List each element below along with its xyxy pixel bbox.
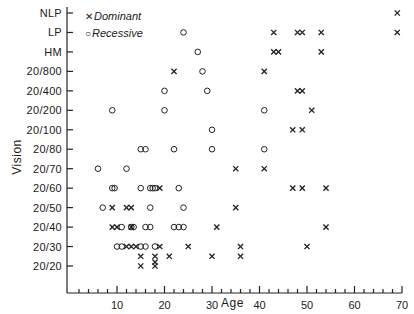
recessive-point (138, 185, 144, 191)
recessive-point (209, 146, 215, 152)
dominant-point (300, 88, 305, 93)
y-tick-label: 20/800 (27, 65, 62, 77)
dominant-point (129, 244, 134, 249)
legend: ✕Dominant ○Recessive (85, 8, 143, 42)
dominant-point (152, 260, 157, 265)
x-tick-label: 20 (158, 299, 170, 311)
recessive-point (124, 166, 130, 172)
y-tick-label: 20/400 (27, 85, 62, 97)
y-tick-label: 20/70 (33, 163, 62, 175)
recessive-point (109, 108, 115, 114)
dominant-point (171, 69, 176, 74)
dominant-point (271, 49, 276, 54)
dominant-point (395, 30, 400, 35)
x-axis-title: Age (221, 296, 244, 310)
dominant-point (152, 254, 157, 259)
dominant-point (300, 186, 305, 191)
recessive-point (209, 127, 215, 133)
dominant-point (110, 224, 115, 229)
recessive-point (181, 30, 187, 36)
dominant-point (295, 30, 300, 35)
y-tick-label: LP (48, 26, 62, 38)
dominant-point (319, 30, 324, 35)
y-tick-label: 20/30 (33, 241, 62, 253)
dominant-point (323, 186, 328, 191)
recessive-point (261, 108, 267, 114)
y-tick-label: 20/200 (27, 104, 62, 116)
x-tick-label: 40 (253, 299, 265, 311)
dominant-point (209, 254, 214, 259)
dominant-point (276, 49, 281, 54)
y-tick-label: NLP (40, 7, 62, 19)
recessive-point (152, 244, 158, 250)
recessive-point (162, 88, 168, 94)
y-tick-label: 20/20 (33, 260, 62, 272)
recessive-point (181, 205, 187, 211)
dominant-point (300, 30, 305, 35)
y-tick-label: 20/40 (33, 221, 62, 233)
recessive-point (200, 69, 206, 75)
legend-item-dominant: ✕Dominant (85, 8, 143, 25)
recessive-point (261, 146, 267, 152)
circle-marker-icon: ○ (85, 28, 91, 39)
x-tick-label: 70 (396, 299, 408, 311)
dominant-point (309, 108, 314, 113)
dominant-point (238, 254, 243, 259)
x-tick-label: 30 (206, 299, 218, 311)
legend-item-recessive: ○Recessive (85, 25, 143, 42)
recessive-point (119, 224, 125, 230)
recessive-point (147, 205, 153, 211)
dominant-point (271, 30, 276, 35)
dominant-point (238, 244, 243, 249)
dominant-point (186, 244, 191, 249)
recessive-point (195, 49, 201, 55)
dominant-point (233, 205, 238, 210)
recessive-point (204, 88, 210, 94)
dominant-point (233, 166, 238, 171)
y-tick-label: 20/80 (33, 143, 62, 155)
dominant-point (138, 254, 143, 259)
recessive-point (162, 108, 168, 114)
dominant-point (304, 244, 309, 249)
y-axis-title: Vision (10, 139, 24, 174)
dominant-point (110, 205, 115, 210)
plot-area (0, 0, 414, 314)
dominant-point (300, 127, 305, 132)
dominant-point (129, 205, 134, 210)
recessive-point (176, 185, 182, 191)
y-tick-label: 20/50 (33, 202, 62, 214)
dominant-point (295, 88, 300, 93)
dominant-point (395, 10, 400, 15)
dominant-point (262, 166, 267, 171)
recessive-point (95, 166, 101, 172)
dominant-point (138, 263, 143, 268)
dominant-point (290, 127, 295, 132)
dominant-point (323, 224, 328, 229)
x-tick-label: 10 (111, 299, 123, 311)
x-marker-icon: ✕ (85, 11, 93, 22)
dominant-point (262, 69, 267, 74)
recessive-point (100, 205, 106, 211)
dominant-point (290, 186, 295, 191)
scatter-chart: 20/2020/3020/4020/5020/6020/7020/8020/10… (0, 0, 414, 314)
dominant-point (214, 224, 219, 229)
recessive-point (171, 146, 177, 152)
x-tick-label: 50 (301, 299, 313, 311)
x-tick-label: 60 (348, 299, 360, 311)
y-tick-label: 20/100 (27, 124, 62, 136)
y-tick-label: HM (44, 46, 62, 58)
dominant-point (167, 254, 172, 259)
y-tick-label: 20/60 (33, 182, 62, 194)
dominant-point (124, 205, 129, 210)
dominant-point (319, 49, 324, 54)
